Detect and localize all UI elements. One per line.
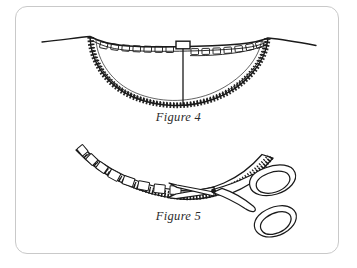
shoulder-line-left <box>42 37 90 43</box>
figure-4-group <box>42 37 316 106</box>
shoulder-line-right <box>268 38 316 46</box>
figure-4-caption: Figure 4 <box>0 110 357 125</box>
figure-5-caption: Figure 5 <box>0 209 357 224</box>
illustration-canvas <box>0 0 357 268</box>
scissors-pivot-screw <box>211 189 216 194</box>
scissors <box>168 165 296 237</box>
line-art-svg <box>0 0 357 268</box>
clip-notches-figure5 <box>77 144 181 194</box>
illustration-page: Figure 4 Figure 5 <box>0 0 357 268</box>
center-front-tab <box>176 41 190 49</box>
